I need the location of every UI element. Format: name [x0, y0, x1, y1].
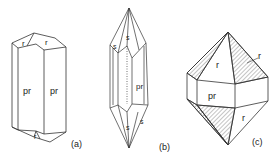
face-label-s: s — [126, 34, 130, 41]
face-label-pr: pr — [208, 91, 216, 101]
caption-b: (b) — [159, 142, 170, 152]
face-label-r-pointer: r — [258, 51, 261, 61]
face-label-r: r — [22, 39, 25, 48]
face-label-pr: pr — [23, 86, 31, 96]
face-label-r: r — [216, 60, 219, 70]
caption-c: (c) — [252, 137, 263, 147]
face-label-s: s — [140, 118, 144, 125]
caption-a: (a) — [71, 139, 82, 149]
face-label-s: s — [113, 43, 117, 50]
face-label-s: s — [126, 124, 130, 131]
face-label-pr: pr — [136, 82, 143, 91]
crystal-c — [187, 32, 268, 145]
face-label-pr: pr — [50, 86, 58, 96]
diagram-canvas: r r pr pr r (a) s s pr s s (b) — [0, 0, 276, 166]
face-label-r: r — [34, 133, 37, 140]
face-label-r: r — [242, 113, 245, 123]
crystal-habits-diagram: r r pr pr r (a) s s pr s s (b) — [0, 0, 276, 166]
face-label-r: r — [45, 38, 48, 47]
